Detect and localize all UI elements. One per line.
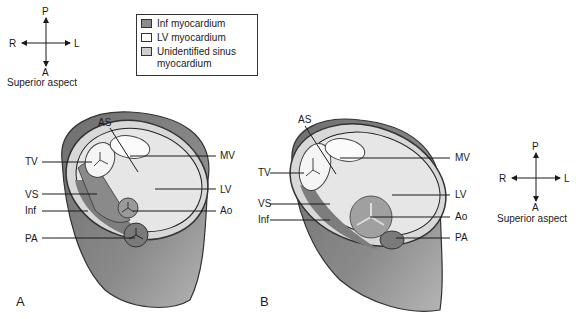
svg-text:B: B — [260, 294, 269, 309]
svg-text:Inf: Inf — [258, 214, 269, 225]
svg-text:VS: VS — [258, 198, 272, 209]
heart-a — [51, 103, 224, 308]
svg-text:R: R — [9, 38, 16, 49]
svg-text:AS: AS — [298, 114, 312, 125]
svg-text:Superior aspect: Superior aspect — [497, 213, 567, 224]
svg-text:AS: AS — [98, 117, 112, 128]
svg-text:Ao: Ao — [220, 205, 233, 216]
svg-text:TV: TV — [25, 156, 38, 167]
svg-text:MV: MV — [220, 150, 235, 161]
svg-text:Ao: Ao — [455, 211, 468, 222]
heart-diagram: P A R L Superior aspect P A R L Superior… — [0, 0, 579, 319]
compass-right: P A R L Superior aspect — [497, 141, 570, 224]
svg-text:P: P — [42, 6, 49, 17]
svg-text:P: P — [532, 141, 539, 152]
svg-text:MV: MV — [455, 152, 470, 163]
svg-text:Inf: Inf — [25, 205, 36, 216]
svg-text:LV: LV — [220, 184, 232, 195]
compass-left: P A R L Superior aspect — [7, 6, 80, 88]
svg-text:VS: VS — [25, 189, 39, 200]
svg-text:L: L — [74, 38, 80, 49]
svg-text:A: A — [532, 202, 539, 213]
svg-text:PA: PA — [455, 232, 468, 243]
svg-text:L: L — [564, 173, 570, 184]
svg-text:PA: PA — [25, 233, 38, 244]
svg-text:Superior aspect: Superior aspect — [7, 77, 77, 88]
svg-text:LV: LV — [455, 189, 467, 200]
svg-text:TV: TV — [258, 167, 271, 178]
svg-text:A: A — [16, 294, 25, 309]
svg-text:R: R — [499, 173, 506, 184]
heart-b — [273, 103, 463, 311]
